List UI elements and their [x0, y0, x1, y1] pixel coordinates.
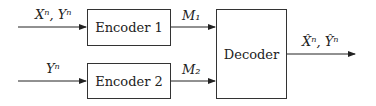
message-label-m2: M₂	[182, 62, 201, 77]
encoder-1-box: Encoder 1	[87, 9, 171, 46]
message-label-m1: M₁	[182, 8, 201, 23]
input-label-xy: Xⁿ, Yⁿ	[35, 7, 72, 22]
decoder-box: Decoder	[216, 9, 287, 99]
output-label: X̂ⁿ, Ŷⁿ	[302, 34, 339, 49]
encoder-2-box: Encoder 2	[87, 63, 171, 99]
input-label-y: Yⁿ	[46, 61, 60, 76]
